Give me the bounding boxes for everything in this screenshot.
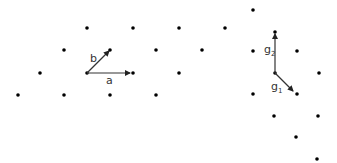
left-lattice-points (16, 26, 227, 97)
lattice-point (223, 26, 227, 30)
lattice-point (38, 71, 42, 75)
lattice-point (16, 93, 20, 97)
lattice-point (294, 135, 298, 139)
lattice-point (251, 92, 255, 96)
vector-g2-label: g2 (264, 43, 275, 58)
lattice-point (273, 30, 277, 34)
lattice-point (108, 93, 112, 97)
lattice-point (131, 26, 135, 30)
lattice-point (62, 93, 66, 97)
lattice-point (272, 114, 276, 118)
lattice-point (317, 71, 321, 75)
lattice-point (295, 92, 299, 96)
lattice-point (251, 49, 255, 53)
lattice-point (62, 48, 66, 52)
vector-b-label: b (90, 52, 97, 65)
lattice-point (177, 26, 181, 30)
lattice-diagram: ab g1g2 (0, 0, 337, 163)
lattice-point (200, 48, 204, 52)
lattice-point (251, 8, 255, 12)
lattice-point (154, 48, 158, 52)
lattice-point (295, 49, 299, 53)
vector-g1-label: g1 (271, 80, 282, 95)
left-basis-vectors: ab (87, 51, 130, 87)
right-basis-vectors: g1g2 (264, 34, 293, 95)
lattice-point (177, 71, 181, 75)
lattice-point (316, 114, 320, 118)
vector-a-label: a (106, 74, 113, 87)
lattice-point (315, 157, 319, 161)
lattice-point (131, 71, 135, 75)
lattice-point (85, 26, 89, 30)
lattice-point (154, 93, 158, 97)
